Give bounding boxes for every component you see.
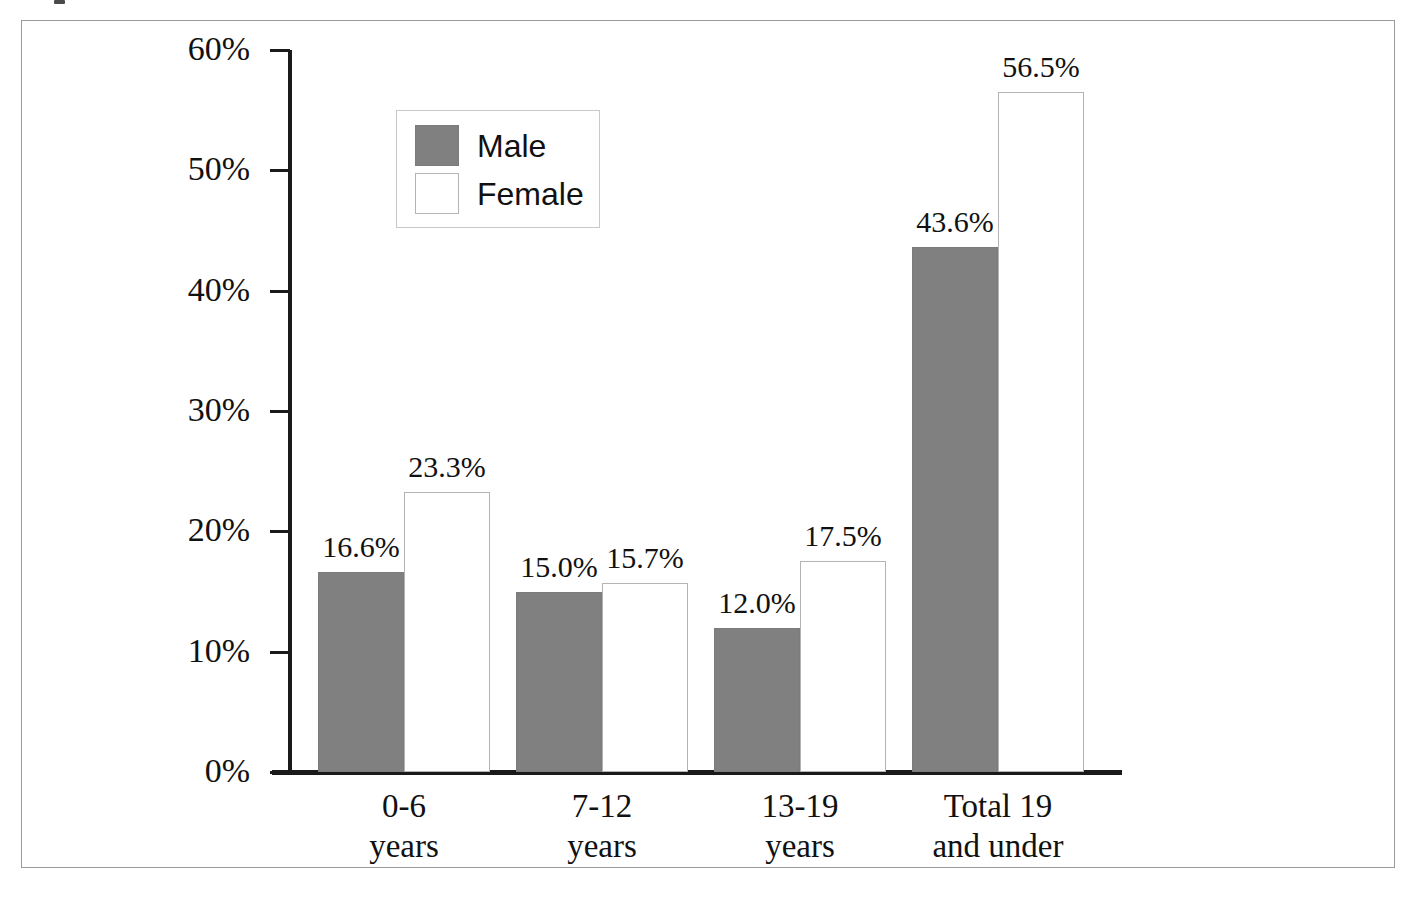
bar-chart-figure: 0%10%20%30%40%50%60% 16.6%23.3%15.0%15.7… — [0, 0, 1411, 897]
legend-label-female: Female — [477, 174, 584, 214]
x-axis-category-line: and under — [868, 826, 1128, 866]
y-axis-tick-label: 30% — [150, 393, 250, 427]
y-axis-tick — [270, 410, 290, 413]
bar-female — [800, 561, 886, 772]
bar-male — [318, 572, 404, 772]
bar-female — [404, 492, 490, 772]
bar-male — [912, 247, 998, 772]
y-axis-tick — [270, 49, 290, 52]
legend-swatch-male-icon — [415, 125, 459, 166]
bar-value-label: 17.5% — [753, 521, 933, 551]
bar-value-label: 15.7% — [555, 543, 735, 573]
x-axis-category-line: Total 19 — [868, 786, 1128, 826]
bar-male — [516, 592, 602, 773]
bar-value-label: 56.5% — [951, 52, 1131, 82]
x-axis-category-label: Total 19and under — [868, 786, 1128, 867]
y-axis-tick-label: 20% — [150, 513, 250, 547]
y-axis-tick — [270, 651, 290, 654]
y-axis-tick-label: 40% — [150, 273, 250, 307]
y-axis-tick — [270, 290, 290, 293]
legend-label-male: Male — [477, 126, 546, 166]
y-axis-tick — [270, 169, 290, 172]
y-axis-tick-label: 10% — [150, 634, 250, 668]
bar-female — [998, 92, 1084, 772]
y-axis-tick — [270, 771, 290, 774]
y-axis-tick-label: 0% — [150, 754, 250, 788]
bar-male — [714, 628, 800, 772]
y-axis-tick-label: 60% — [150, 32, 250, 66]
legend-swatch-female-icon — [415, 173, 459, 214]
y-axis-tick-label: 50% — [150, 152, 250, 186]
bar-value-label: 23.3% — [357, 452, 537, 482]
chart-legend: Male Female — [396, 110, 600, 228]
